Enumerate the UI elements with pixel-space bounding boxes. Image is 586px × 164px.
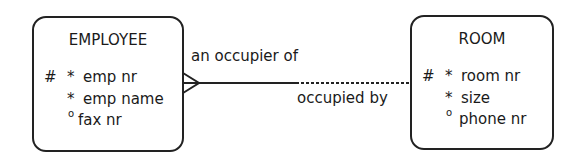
uid-mark: #: [422, 67, 435, 85]
entity-title: ROOM: [412, 30, 552, 48]
attribute-size: size: [461, 89, 490, 107]
attribute-room-nr: room nr: [461, 67, 520, 85]
uid-mark: #: [44, 68, 57, 86]
attribute-emp-nr: emp nr: [83, 68, 137, 86]
optional-mark: o: [446, 107, 452, 118]
optional-mark: o: [68, 108, 74, 119]
entity-title: EMPLOYEE: [34, 31, 182, 49]
attribute-phone-nr: phone nr: [459, 110, 526, 128]
relationship-label-to: occupied by: [297, 89, 388, 107]
relationship-label-from: an occupier of: [191, 47, 298, 65]
attribute-fax-nr: fax nr: [78, 111, 122, 129]
mandatory-mark: *: [445, 89, 453, 107]
mandatory-mark: *: [445, 67, 453, 85]
mandatory-mark: *: [67, 90, 75, 108]
entity-employee[interactable]: EMPLOYEE # * emp nr * emp name o fax nr: [32, 16, 184, 152]
entity-room[interactable]: ROOM # * room nr * size o phone nr: [410, 15, 554, 150]
attribute-emp-name: emp name: [83, 90, 164, 108]
mandatory-mark: *: [67, 68, 75, 86]
